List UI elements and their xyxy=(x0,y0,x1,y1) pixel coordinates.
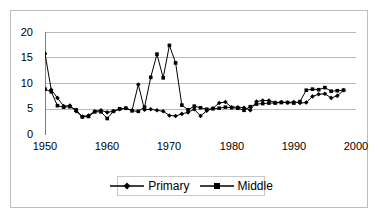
legend-label-middle: Middle xyxy=(238,180,273,192)
y-tick-label: 5 xyxy=(11,103,33,114)
legend-line-diamond-icon xyxy=(109,180,145,192)
plot-area xyxy=(45,32,356,135)
y-tick-label: 15 xyxy=(11,52,33,63)
plot-svg xyxy=(45,32,356,135)
y-tick-label: 0 xyxy=(11,129,33,140)
x-tick-label: 1950 xyxy=(25,141,65,152)
top-text-remnant xyxy=(0,0,379,9)
x-tick-label: 1960 xyxy=(87,141,127,152)
chart-legend: Primary Middle xyxy=(117,176,265,196)
legend-label-primary: Primary xyxy=(148,180,189,192)
chart-screenshot: 20 15 10 5 0 1950 1960 1970 1980 1990 20… xyxy=(0,0,379,219)
legend-item-middle: Middle xyxy=(199,180,273,192)
x-tick-label: 2000 xyxy=(336,141,376,152)
x-tick-label: 1970 xyxy=(149,141,189,152)
legend-line-square-icon xyxy=(199,180,235,192)
y-tick-label: 20 xyxy=(11,27,33,38)
x-tick-label: 1990 xyxy=(274,141,314,152)
legend-item-primary: Primary xyxy=(109,180,189,192)
x-tick-label: 1980 xyxy=(212,141,252,152)
y-tick-label: 10 xyxy=(11,78,33,89)
